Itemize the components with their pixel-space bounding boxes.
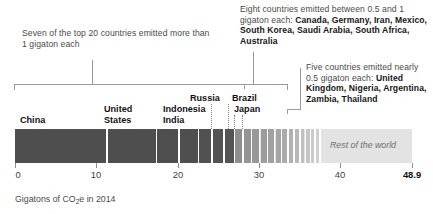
bar-segment-china <box>15 129 106 163</box>
bracket-right-cap <box>287 84 288 90</box>
bar-segment-russia <box>180 129 198 163</box>
axis-label-30: 30 <box>254 169 264 180</box>
axis-tick-20 <box>178 163 179 168</box>
axis-tick-30 <box>259 163 260 168</box>
bracket-five-left-cap <box>287 109 288 114</box>
bar-label-states: States <box>104 115 131 126</box>
axis-label-0: 0 <box>15 169 20 180</box>
axis-title: Gigatons of CO2e in 2014 <box>15 194 116 204</box>
bar-segment-germany <box>244 129 251 163</box>
bar-label-india: India <box>163 115 184 126</box>
annotation-seven-text: Seven of the top 20 countries emitted mo… <box>22 28 210 49</box>
axis-label-10: 10 <box>91 169 101 180</box>
bar-label-china: China <box>20 115 45 126</box>
bar-label-russia: Russia <box>190 93 220 104</box>
axis-label-20: 20 <box>173 169 183 180</box>
x-axis: 0 10 20 30 40 48.9 <box>0 163 433 193</box>
axis-tick-0 <box>15 163 16 168</box>
axis-tick-489 <box>412 163 413 168</box>
leader-japan <box>242 115 243 129</box>
bracket-eight-stem <box>253 52 254 84</box>
annotation-seven-countries: Seven of the top 20 countries emitted mo… <box>22 28 212 49</box>
chart-canvas: Seven of the top 20 countries emitted mo… <box>0 0 433 214</box>
bracket-five-stem <box>300 68 301 110</box>
bar-label-rest-of-world: Rest of the world <box>330 140 396 150</box>
bar-segment-brazil <box>225 129 234 163</box>
axis-tick-10 <box>96 163 97 168</box>
bar-label-indonesia: Indonesia <box>163 104 205 115</box>
leader-russia <box>228 104 229 129</box>
bar-segment-india <box>157 129 178 163</box>
axis-title-pre: Gigatons of CO <box>15 194 76 204</box>
axis-label-489: 48.9 <box>403 169 421 180</box>
bracket-five-top-rule <box>287 109 301 110</box>
bar-segment-canada <box>235 129 242 163</box>
bar-segment-japan <box>199 129 211 163</box>
axis-label-40: 40 <box>335 169 345 180</box>
annotation-five-countries: Five countries emitted nearly 0.5 gigato… <box>306 62 432 104</box>
leader-indonesia <box>211 104 212 129</box>
axis-tick-40 <box>340 163 341 168</box>
bracket-top-rule <box>14 84 288 85</box>
bracket-seven-stem <box>92 60 93 84</box>
bracket-eight-tick <box>244 84 245 89</box>
leader-brazil <box>234 115 235 129</box>
bar-segment-indonesia <box>213 129 223 163</box>
bar-segment-united-states <box>108 129 156 163</box>
annotation-eight-countries: Eight countries emitted between 0.5 and … <box>240 4 433 46</box>
bar-label-japan: Japan <box>234 104 260 115</box>
axis-title-subscript: 2 <box>76 198 80 205</box>
axis-title-post: e in 2014 <box>79 194 115 204</box>
bracket-left-cap <box>14 84 15 90</box>
bar-label-brazil: Brazil <box>232 93 257 104</box>
bar-label-united: United <box>104 104 132 115</box>
